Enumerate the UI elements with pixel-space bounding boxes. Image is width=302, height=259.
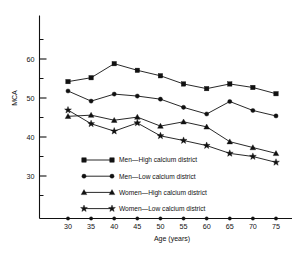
series-line [68,91,276,116]
legend-label: Women—Low calcium district [119,205,206,212]
chart-plot-area: 3040506030354045505560657075Age (years)M… [0,0,302,259]
legend-marker [109,205,116,212]
series-line [68,115,276,153]
x-tick-marker [251,217,254,220]
legend-marker [110,174,114,178]
x-tick-label: 65 [226,222,234,231]
x-tick-marker [228,217,231,220]
y-tick-label: 60 [27,55,35,64]
series-point [181,119,187,124]
series-point [204,86,208,90]
legend-marker [110,158,114,162]
series-point [112,61,116,65]
series-point [228,99,232,103]
series-point [135,94,139,98]
series-point [226,150,233,157]
series-point [180,137,187,144]
series-point [66,89,70,93]
series-point [89,99,93,103]
series-point [158,74,162,78]
x-tick-label: 35 [87,222,95,231]
series-point [135,114,141,119]
x-tick-marker [182,217,185,220]
series-point [181,105,185,109]
series-point [251,108,255,112]
y-tick-label: 40 [27,133,35,142]
y-axis-title: MCA [11,90,18,106]
y-tick-label: 50 [27,94,35,103]
legend-label: Men—High calcium district [119,156,197,164]
x-tick-marker [89,217,92,220]
legend-marker [81,205,88,212]
series-point [158,97,162,101]
series-point [249,153,256,160]
x-tick-label: 40 [110,222,118,231]
series-point [203,142,210,149]
series-point [66,79,70,83]
series-point [273,159,280,166]
x-tick-label: 50 [156,222,164,231]
x-tick-marker [159,217,162,220]
series-point [251,85,255,89]
series-line [68,110,276,162]
series-line [68,64,276,94]
x-tick-label: 70 [249,222,257,231]
x-tick-label: 60 [203,222,211,231]
series-point [274,114,278,118]
series-point [227,139,233,144]
x-axis-title: Age (years) [154,235,190,243]
chart-figure: 3040506030354045505560657075Age (years)M… [0,0,302,259]
series-point [135,68,139,72]
series-point [228,82,232,86]
legend-marker [82,174,86,178]
series-point [274,92,278,96]
x-tick-label: 45 [133,222,141,231]
x-tick-marker [136,217,139,220]
y-tick-label: 30 [27,172,35,181]
series-point [205,112,209,116]
x-tick-marker [66,217,69,220]
series-point [181,82,185,86]
x-tick-label: 55 [180,222,188,231]
series-point [111,128,118,135]
x-tick-marker [205,217,208,220]
series-point [89,76,93,80]
series-point [157,132,164,139]
series-point [112,92,116,96]
x-tick-label: 30 [64,222,72,231]
x-tick-label: 75 [272,222,280,231]
legend-label: Women—High calcium district [119,189,207,197]
series-point [88,120,95,127]
x-tick-marker [274,217,277,220]
legend-label: Men—Low calcium district [119,173,196,180]
series-point [134,119,141,126]
legend-marker [82,158,86,162]
x-tick-marker [113,217,116,220]
